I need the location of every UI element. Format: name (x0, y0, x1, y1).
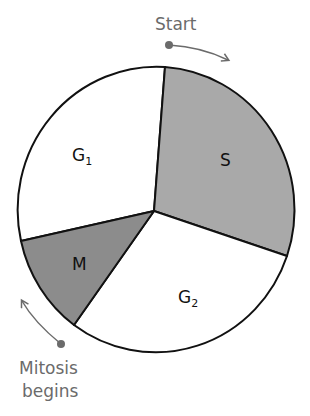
phase-m-label: M (72, 254, 87, 274)
cell-cycle-diagram: G1 S G2 M Start Mitosis begins (0, 0, 310, 416)
mitosis-label-line2: begins (22, 381, 79, 401)
start-arrow-icon (169, 45, 228, 60)
phase-s-label: S (220, 150, 231, 170)
start-label: Start (155, 14, 197, 34)
mitosis-label-line1: Mitosis (19, 358, 78, 378)
